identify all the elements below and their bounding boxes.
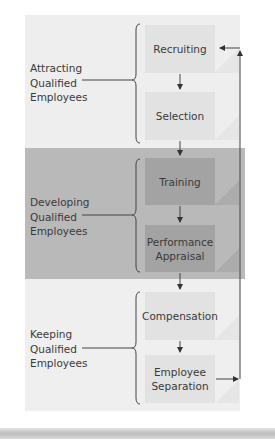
connector-lines — [0, 0, 275, 445]
bottom-divider — [0, 428, 275, 439]
